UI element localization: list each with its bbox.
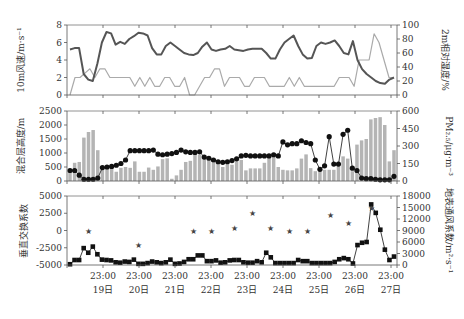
bar <box>147 168 150 181</box>
bar <box>314 171 317 181</box>
square-marker <box>305 259 310 264</box>
y-tick-label-right: 150 <box>402 159 419 169</box>
bar <box>327 170 330 181</box>
bar <box>212 163 215 181</box>
dot-marker <box>382 177 387 182</box>
x-tick-day: 25日 <box>309 285 329 295</box>
bar <box>249 168 252 181</box>
y-tick-label: 4 <box>56 55 62 65</box>
bar <box>378 117 381 181</box>
bar <box>119 168 122 181</box>
bar <box>207 161 210 181</box>
dot-marker <box>276 153 281 158</box>
dot-marker <box>216 159 221 164</box>
panel-middle: 050010001500200025000150300450600混合层高度/m… <box>15 106 454 186</box>
y-tick-label: 0 <box>56 90 62 100</box>
dot-marker <box>327 134 332 139</box>
square-marker <box>227 258 232 263</box>
y-tick-label: 2 <box>56 73 62 83</box>
y-tick-label-right: 80 <box>402 34 414 44</box>
bar <box>68 173 71 181</box>
square-marker <box>122 259 127 264</box>
y-tick-label-right: 0 <box>402 260 408 270</box>
square-marker <box>205 259 210 264</box>
y-tick-label-right: 12000 <box>402 214 431 224</box>
dot-marker <box>340 132 345 137</box>
dot-marker <box>303 140 308 145</box>
dot-marker <box>192 150 197 155</box>
bar <box>216 164 219 181</box>
bar <box>240 160 243 181</box>
dot-marker <box>229 158 234 163</box>
bar <box>128 168 131 181</box>
dot-marker <box>290 141 295 146</box>
bar <box>133 161 136 181</box>
x-tick-day: 19日 <box>93 285 113 295</box>
star-marker: ★ <box>286 227 293 236</box>
bar <box>175 175 178 181</box>
bar <box>346 159 349 181</box>
dot-marker <box>378 177 383 182</box>
x-tick-time: 23:00 <box>162 271 188 281</box>
figure: 0246802040608010010m风速/m·s⁻¹2m相对湿度/%0500… <box>0 0 464 319</box>
dot-marker <box>95 175 100 180</box>
dot-marker <box>67 168 72 173</box>
square-marker <box>255 259 260 264</box>
bar <box>82 138 85 181</box>
square-marker <box>81 246 86 251</box>
star-marker: ★ <box>85 227 92 236</box>
x-tick-time: 23:00 <box>306 271 332 281</box>
dot-marker <box>308 141 313 146</box>
dot-marker <box>234 156 239 161</box>
bar <box>309 168 312 181</box>
dot-marker <box>225 159 230 164</box>
dot-marker <box>202 154 207 159</box>
bar <box>156 166 159 181</box>
y-tick-label-right: 3000 <box>402 249 425 259</box>
x-tick-day: 24日 <box>273 285 293 295</box>
square-marker <box>355 243 360 248</box>
square-marker <box>246 260 251 265</box>
dot-marker <box>294 141 299 146</box>
bar <box>235 161 238 181</box>
dot-marker <box>285 142 290 147</box>
bar <box>300 159 303 181</box>
dot-marker <box>77 173 82 178</box>
square-marker <box>250 260 255 265</box>
square-marker <box>264 250 269 255</box>
dot-marker <box>280 139 285 144</box>
x-tick-day: 26日 <box>345 285 365 295</box>
bar <box>281 170 284 181</box>
dot-marker <box>211 157 216 162</box>
dot-marker <box>359 175 364 180</box>
bar <box>152 170 155 181</box>
bar <box>165 158 168 181</box>
bar <box>383 125 386 181</box>
bar <box>189 161 192 181</box>
square-marker <box>68 262 73 267</box>
y-tick-label-right: 18000 <box>402 191 431 201</box>
y-tick-label-right: 40 <box>402 62 414 72</box>
square-marker <box>237 258 242 263</box>
square-marker <box>200 253 205 258</box>
bar <box>374 118 377 181</box>
dot-marker <box>253 153 258 158</box>
bar <box>267 158 270 181</box>
square-marker <box>268 255 273 260</box>
y-tick-label: -2500 <box>36 243 62 253</box>
x-tick-day: 21日 <box>165 285 185 295</box>
square-marker <box>218 260 223 265</box>
x-tick-day: 23日 <box>237 285 257 295</box>
square-marker <box>127 260 132 265</box>
star-marker: ★ <box>368 204 375 213</box>
star-marker: ★ <box>135 241 142 250</box>
square-marker <box>72 258 77 263</box>
y-tick-label: 0 <box>56 226 62 236</box>
dot-marker <box>169 151 174 156</box>
bar <box>295 168 298 181</box>
y-tick-label: 2500 <box>39 106 62 116</box>
y-tick-label-right: 15000 <box>402 203 431 213</box>
y-axis-title-right: PM₂.₅/μg·m⁻³ <box>444 116 454 176</box>
square-marker <box>300 259 305 264</box>
star-marker: ★ <box>327 211 334 220</box>
